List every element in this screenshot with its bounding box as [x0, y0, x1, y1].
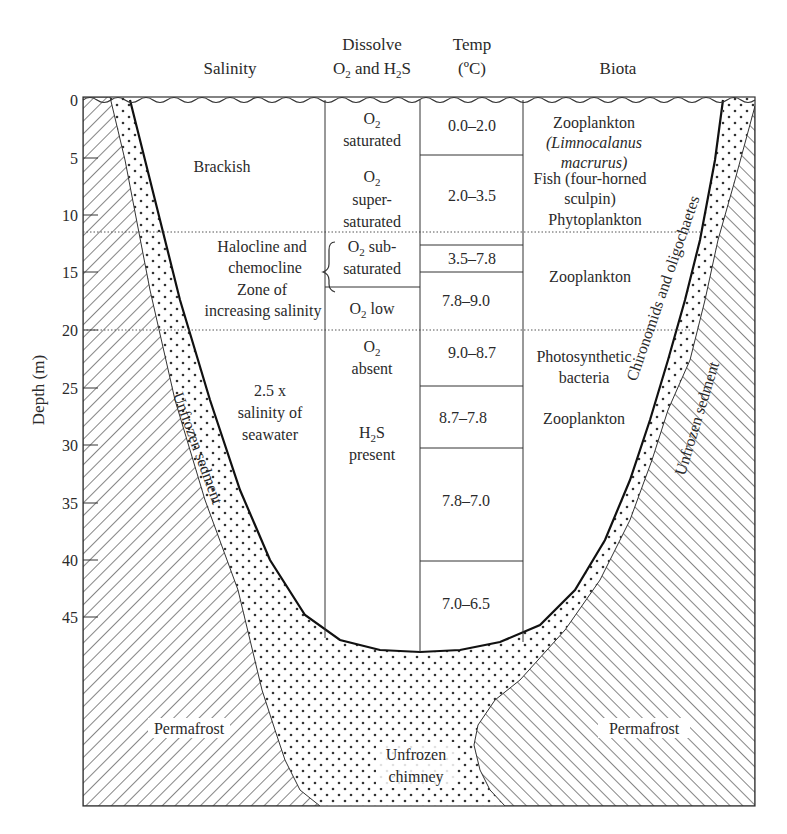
- biota-fish: Fish (four-horned: [534, 170, 647, 188]
- svg-text:10: 10: [62, 207, 78, 224]
- biota-zooplankton: Zooplankton: [553, 114, 635, 132]
- label-permafrost-left: Permafrost: [154, 720, 225, 737]
- header-dissolve: Dissolve: [342, 35, 402, 54]
- label-unfrozen-chimney: Unfrozen: [386, 746, 446, 763]
- lake-profile-diagram: Salinity Dissolve O2 and H2S Temp (ºC) B…: [0, 0, 787, 834]
- svg-text:sculpin): sculpin): [564, 190, 616, 208]
- svg-text:saturated: saturated: [343, 213, 401, 230]
- header-temp: Temp: [453, 35, 491, 54]
- biota-zooplankton-deep: Zooplankton: [543, 410, 625, 428]
- svg-text:35: 35: [62, 495, 78, 512]
- svg-text:chemocline: chemocline: [228, 259, 302, 276]
- svg-text:40: 40: [62, 552, 78, 569]
- svg-text:present: present: [349, 446, 396, 464]
- svg-text:15: 15: [62, 264, 78, 281]
- temp-cell: 7.8–9.0: [442, 292, 490, 309]
- temp-cell: 7.0–6.5: [442, 595, 490, 612]
- salinity-brackish: Brackish: [194, 158, 251, 175]
- svg-text:seawater: seawater: [242, 426, 299, 443]
- header-biota: Biota: [600, 59, 637, 78]
- temp-cell: 7.8–7.0: [442, 492, 490, 509]
- salinity-halocline: Halocline and: [217, 238, 306, 255]
- temp-cell: 8.7–7.8: [439, 409, 487, 426]
- svg-text:absent: absent: [352, 360, 393, 377]
- svg-text:(Limnocalanus: (Limnocalanus: [546, 134, 642, 152]
- temp-cell: 0.0–2.0: [448, 117, 496, 134]
- header-temp-unit: (ºC): [458, 59, 486, 78]
- svg-text:super-: super-: [352, 191, 392, 209]
- header-salinity: Salinity: [204, 59, 257, 78]
- label-permafrost-right: Permafrost: [609, 720, 680, 737]
- svg-text:30: 30: [62, 437, 78, 454]
- biota-phytoplankton: Phytoplankton: [548, 211, 641, 229]
- temp-cell: 2.0–3.5: [448, 187, 496, 204]
- svg-text:chimney: chimney: [388, 768, 443, 786]
- axis-ticks: 0 5 10 15 20 25 30 35 40 45: [62, 92, 78, 626]
- depth-axis: Depth (m) 0 5 10 15 20 25 30 35 40 45: [29, 92, 78, 626]
- svg-text:0: 0: [70, 92, 78, 109]
- temp-cell: 3.5–7.8: [448, 250, 496, 267]
- svg-text:increasing salinity: increasing salinity: [205, 302, 322, 320]
- svg-text:45: 45: [62, 609, 78, 626]
- svg-text:20: 20: [62, 322, 78, 339]
- header-o2-h2s: O2 and H2S: [333, 59, 411, 80]
- svg-text:salinity of: salinity of: [238, 404, 303, 422]
- svg-text:Zone of: Zone of: [237, 281, 288, 298]
- svg-text:saturated: saturated: [343, 132, 401, 149]
- biota-zooplankton-mid: Zooplankton: [549, 268, 631, 286]
- svg-text:25: 25: [62, 380, 78, 397]
- svg-text:saturated: saturated: [343, 260, 401, 277]
- salinity-deep: 2.5 x: [254, 382, 286, 399]
- biota-photosynthetic-bacteria: Photosynthetic: [536, 348, 631, 366]
- temp-cell: 9.0–8.7: [448, 344, 496, 361]
- svg-text:5: 5: [70, 150, 78, 167]
- column-headers: Salinity Dissolve O2 and H2S Temp (ºC) B…: [204, 35, 637, 80]
- svg-text:bacteria: bacteria: [559, 369, 610, 386]
- axis-label-depth: Depth (m): [29, 355, 48, 425]
